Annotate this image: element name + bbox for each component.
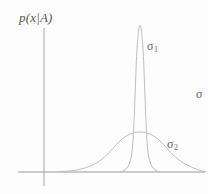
sigma2-subscript: 2 <box>174 143 178 152</box>
y-axis-label: p(x|A) <box>19 11 53 24</box>
sigma2-symbol: σ <box>167 137 173 151</box>
sigma1-subscript: 1 <box>154 45 158 54</box>
clipped-sigma-annotation: σ <box>196 88 202 100</box>
sigma1-symbol: σ <box>147 39 153 53</box>
plot-canvas <box>0 0 208 194</box>
sigma2-annotation: σ2 <box>167 138 177 150</box>
probability-density-figure: p(x|A) σ1 σ2 σ <box>0 0 208 194</box>
sigma1-annotation: σ1 <box>147 40 157 52</box>
